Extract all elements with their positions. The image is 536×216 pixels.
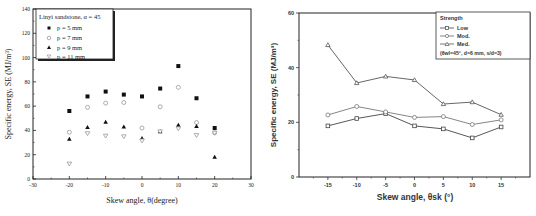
left-legend: Linyi sandstone, α = 45 p = 5 mm p = 7 m…	[36, 9, 115, 61]
y-tick-label: 140	[22, 6, 31, 12]
x-tick-label: 5	[442, 182, 445, 188]
x-tick-label: -5	[383, 182, 388, 188]
y-tick-label: 0	[291, 174, 294, 180]
y-tick-label: 60	[25, 103, 31, 109]
data-point-square	[326, 124, 330, 128]
legend-open-square-icon	[446, 27, 449, 30]
data-point-circle	[413, 115, 417, 119]
data-point-triangle-down	[194, 134, 199, 138]
series-0	[67, 64, 216, 130]
data-point-circle	[441, 115, 445, 119]
y-tick-label: 20	[288, 119, 294, 125]
left-x-axis-label: Skew angle, θ(degree)	[106, 196, 178, 205]
data-point-square	[499, 125, 503, 129]
data-point-square	[104, 90, 108, 94]
data-point-square	[355, 117, 359, 121]
x-tick-label: 10	[469, 182, 475, 188]
data-point-circle	[104, 101, 108, 105]
x-tick-label: 0	[141, 182, 144, 188]
data-point-square	[195, 96, 199, 100]
right-legend-item: Low	[457, 25, 469, 31]
data-point-square	[122, 93, 126, 97]
x-tick-label: 30	[248, 182, 254, 188]
left-x-axis: -30-20-100102030	[29, 176, 254, 188]
data-point-triangle	[326, 43, 330, 47]
data-point-circle	[86, 105, 90, 109]
data-point-circle	[499, 118, 503, 122]
data-point-triangle	[499, 112, 503, 116]
left-legend-item: p = 9 mm	[57, 44, 82, 51]
right-y-axis: 0204060	[288, 10, 299, 180]
x-tick-label: -30	[29, 182, 37, 188]
data-point-triangle-down	[103, 134, 108, 138]
data-point-circle	[355, 104, 359, 108]
data-point-triangle-down	[67, 162, 72, 166]
data-point-triangle-down	[176, 127, 181, 131]
right-legend-item: Med.	[457, 41, 470, 47]
left-legend-item: p = 7 mm	[57, 34, 82, 41]
data-point-triangle	[212, 155, 217, 159]
data-point-circle	[384, 110, 388, 114]
data-point-triangle-down	[85, 132, 90, 136]
data-point-circle	[140, 126, 144, 130]
y-tick-label: 0	[27, 176, 30, 182]
left-data-points	[67, 64, 217, 166]
data-point-circle	[122, 101, 126, 105]
data-point-triangle	[412, 78, 416, 82]
left-y-axis: 020406080100120140	[22, 6, 36, 182]
right-legend-item: Mod.	[457, 33, 470, 39]
data-point-circle	[326, 113, 330, 117]
right-legend-title: Strength	[440, 15, 463, 21]
right-x-axis-label: Skew angle, θsk (°)	[377, 192, 454, 202]
x-tick-label: -15	[324, 182, 332, 188]
data-point-triangle-down	[122, 135, 127, 139]
left-y-axis-label: Specific energy, SE (MJ/m³)	[4, 48, 13, 139]
series-mod	[326, 104, 503, 126]
data-point-circle	[176, 85, 180, 89]
y-tick-label: 60	[288, 10, 294, 16]
data-point-circle	[67, 130, 71, 134]
data-point-triangle	[383, 74, 387, 78]
y-tick-label: 100	[22, 55, 31, 61]
right-y-axis-label: Specific energy, SE (MJ/m³)	[269, 43, 278, 148]
y-tick-label: 20	[25, 152, 31, 158]
data-point-square	[213, 126, 217, 130]
x-tick-label: 20	[212, 182, 218, 188]
data-point-square	[413, 124, 417, 128]
data-point-triangle	[67, 137, 72, 141]
data-point-square	[442, 127, 446, 131]
series-1	[67, 85, 216, 135]
y-tick-label: 120	[22, 30, 31, 36]
right-x-axis: -15-10-5051015	[313, 177, 515, 188]
data-point-square	[67, 109, 71, 113]
x-tick-label: -20	[66, 182, 74, 188]
data-point-square	[176, 64, 180, 68]
data-point-triangle	[176, 123, 181, 127]
x-tick-label: 15	[498, 182, 504, 188]
right-legend: Strength Low Mod. Med. (θwl=45°, d=6 mm,…	[436, 12, 530, 59]
left-legend-title: Linyi sandstone, α = 45	[39, 13, 100, 20]
x-tick-label: -10	[353, 182, 361, 188]
legend-filled-square-icon	[48, 27, 51, 30]
data-point-square	[86, 94, 90, 98]
data-point-triangle	[103, 120, 108, 124]
data-point-triangle-down	[140, 139, 145, 143]
series-3	[67, 127, 217, 166]
data-point-square	[158, 87, 162, 91]
right-line-chart: -15-10-5051015 0204060 Skew angle, θsk (…	[269, 10, 530, 202]
data-point-triangle	[85, 125, 90, 129]
y-tick-label: 40	[25, 127, 31, 133]
left-legend-item: p = 5 mm	[57, 24, 82, 31]
y-tick-label: 80	[25, 79, 31, 85]
y-tick-label: 40	[288, 65, 294, 71]
right-legend-note: (θwl=45°, d=6 mm, s/d=3)	[440, 50, 502, 56]
data-point-triangle	[194, 124, 199, 128]
data-point-triangle	[470, 100, 474, 104]
x-tick-label: 0	[413, 182, 416, 188]
x-tick-label: -10	[102, 182, 110, 188]
left-scatter-chart: -30-20-100102030 020406080100120140 Skew…	[4, 6, 254, 205]
figure: -30-20-100102030 020406080100120140 Skew…	[0, 0, 536, 216]
left-legend-item: p = 11 mm	[57, 53, 85, 60]
data-point-square	[140, 94, 144, 98]
data-point-circle	[470, 123, 474, 127]
